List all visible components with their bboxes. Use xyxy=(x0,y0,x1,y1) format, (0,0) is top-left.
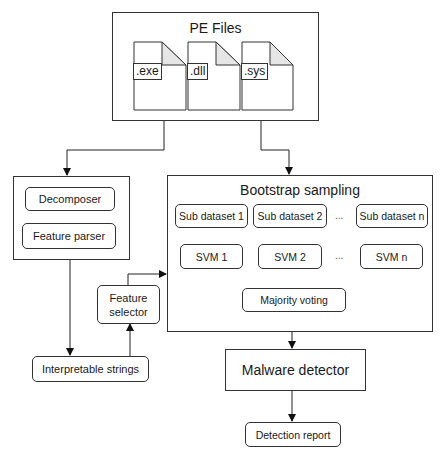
malware-detector-box: Malware detector xyxy=(225,349,366,391)
decomposer-box: Decomposer xyxy=(25,187,115,211)
svm-1: SVM 1 xyxy=(180,244,243,269)
sys-label: .sys xyxy=(241,63,268,80)
feature-selector-box: Feature selector xyxy=(97,285,160,324)
dll-label: .dll xyxy=(187,63,208,80)
sub-dataset-2: Sub dataset 2 xyxy=(253,204,327,228)
ellipsis-svms: ... xyxy=(335,250,343,261)
sub-dataset-1: Sub dataset 1 xyxy=(175,204,248,228)
bootstrap-title: Bootstrap sampling xyxy=(168,182,432,198)
ellipsis-datasets: ... xyxy=(335,210,343,221)
detection-report-box: Detection report xyxy=(245,422,341,447)
svm-2: SVM 2 xyxy=(258,244,322,269)
feature-selector-line2: selector xyxy=(109,305,148,319)
feature-selector-line1: Feature xyxy=(110,291,148,305)
majority-voting-box: Majority voting xyxy=(242,288,346,312)
svm-n: SVM n xyxy=(360,244,423,269)
feature-parser-box: Feature parser xyxy=(22,223,116,249)
interpretable-strings-box: Interpretable strings xyxy=(32,356,149,382)
exe-label: .exe xyxy=(133,63,162,80)
sub-dataset-n: Sub dataset n xyxy=(356,204,428,228)
